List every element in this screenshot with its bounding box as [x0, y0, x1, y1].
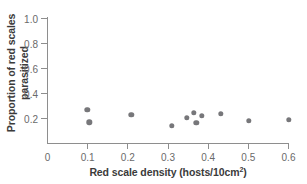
x-axis-tick-label: 0.5 — [241, 152, 255, 163]
x-axis-tick: 0.1 — [87, 144, 88, 149]
y-axis-title-line-1: Proportion of red scales — [5, 14, 17, 132]
x-axis-title-tail: ) — [243, 166, 246, 178]
y-axis-tick-label: 0.2 — [24, 113, 38, 124]
x-axis-tick-label: 0 — [45, 152, 51, 163]
x-axis-tick-label: 0.6 — [282, 152, 296, 163]
y-axis-tick-label: 0.4 — [24, 88, 38, 99]
y-axis-tick-label: 0.6 — [24, 63, 38, 74]
x-axis-tick-label: 0.4 — [201, 152, 215, 163]
x-axis-tick: 0.5 — [248, 144, 249, 149]
x-axis-tick-label: 0.3 — [161, 152, 175, 163]
y-axis-tick-label: 1.0 — [24, 13, 38, 24]
x-axis-tick: 0.3 — [168, 144, 169, 149]
x-axis-title-base: Red scale density (hosts/10cm — [89, 166, 239, 178]
data-point — [286, 117, 291, 122]
scatter-plot-figure: Proportion of red scales parasitized 0.2… — [0, 0, 307, 184]
x-axis-tick: 0.6 — [288, 144, 289, 149]
x-axis-tick: 0.2 — [127, 144, 128, 149]
x-axis-tick: 0 — [47, 144, 48, 149]
y-axis-tick-label: 0.8 — [24, 38, 38, 49]
x-axis-tick: 0.4 — [208, 144, 209, 149]
x-axis-tick-label: 0.2 — [121, 152, 135, 163]
plot-area — [47, 18, 288, 143]
x-axis-tick-label: 0.1 — [81, 152, 95, 163]
x-axis-title: Red scale density (hosts/10cm2) — [47, 166, 289, 178]
